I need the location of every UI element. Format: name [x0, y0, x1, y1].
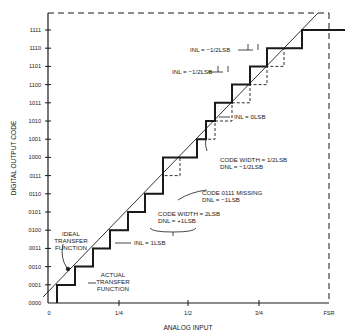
- y-tick-0111: 0111: [29, 173, 41, 179]
- y-tick-0001: 0001: [29, 282, 41, 288]
- dnl-minus1-label: DNL = −1LSB: [202, 196, 240, 203]
- x-tick-half: 1/2: [184, 310, 192, 316]
- y-tick-1010: 1010: [29, 118, 41, 124]
- ideal-label-2: TRANSFER: [54, 237, 88, 244]
- code-missing-label: CODE 0111 MISSING: [202, 189, 262, 196]
- inl-0lsb-label: INL = 0LSB: [234, 113, 266, 120]
- code-width-half-label: CODE WIDTH = 1/2LSB: [220, 156, 287, 163]
- x-tick-three-quarter: 3/4: [255, 310, 263, 316]
- y-tick-0010: 0010: [29, 264, 41, 270]
- ideal-label-1: IDEAL: [62, 230, 80, 237]
- y-tick-labels: 0000 0001 0010 0011 0100 0101 0110 0111 …: [29, 27, 41, 306]
- y-tick-1110: 1110: [29, 45, 41, 51]
- actual-label-2: TRANSFER: [96, 278, 130, 285]
- x-tick-fsr: FSR: [323, 310, 334, 316]
- inl-1lsb-label: INL = 1LSB: [134, 239, 166, 246]
- dnl-plus1-label: DNL = +1LSB: [158, 217, 196, 224]
- y-tick-0100: 0100: [29, 227, 41, 233]
- y-tick-1111: 1111: [30, 27, 41, 33]
- annotations: IDEAL TRANSFER FUNCTION ACTUAL TRANSFER …: [54, 46, 287, 292]
- x-tick-labels: 0 1/4 1/2 3/4 FSR: [47, 310, 334, 316]
- ideal-label-3: FUNCTION: [55, 244, 87, 251]
- y-tick-1101: 1101: [29, 63, 41, 69]
- x-axis-title: ANALOG INPUT: [163, 324, 212, 331]
- y-tick-1001: 1001: [29, 136, 41, 142]
- y-tick-0011: 0011: [29, 245, 41, 251]
- y-tick-0110: 0110: [29, 191, 41, 197]
- code-width-2lsb-label: CODE WIDTH = 2LSB: [158, 210, 220, 217]
- x-tick-0: 0: [47, 310, 50, 316]
- actual-label-1: ACTUAL: [101, 271, 126, 278]
- x-tick-quarter: 1/4: [115, 310, 123, 316]
- inl-minus-half-label-2: INL = −1/2LSB: [190, 46, 230, 53]
- dnl-minus-half-label: DNL = −1/2LSB: [220, 163, 263, 170]
- y-tick-1000: 1000: [29, 154, 41, 160]
- y-tick-1100: 1100: [29, 82, 41, 88]
- inl-minus-half-label-1: INL = −1/2LSB: [172, 68, 212, 75]
- y-tick-0000: 0000: [29, 300, 41, 306]
- y-tick-1011: 1011: [29, 100, 41, 106]
- y-tick-0101: 0101: [29, 209, 41, 215]
- adc-transfer-diagram: 0000 0001 0010 0011 0100 0101 0110 0111 …: [0, 0, 351, 336]
- y-axis-title: DIGITAL OUTPUT CODE: [10, 120, 17, 195]
- actual-label-3: FUNCTION: [97, 285, 129, 292]
- ideal-transfer-line: [43, 13, 318, 297]
